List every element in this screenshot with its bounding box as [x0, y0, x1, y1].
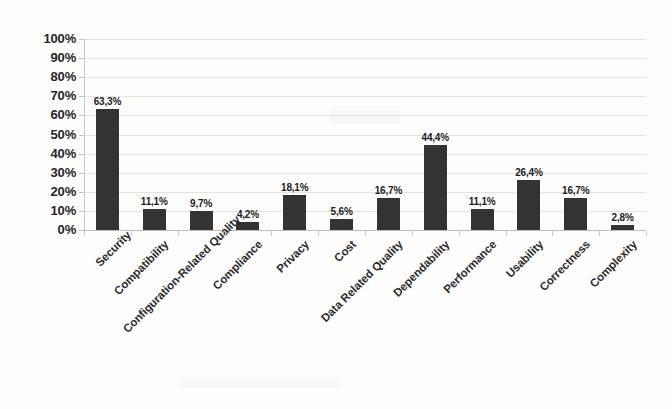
bar-value-label: 11,1%	[454, 196, 510, 207]
bar[interactable]	[564, 198, 587, 230]
bar[interactable]	[377, 198, 400, 230]
bar[interactable]	[517, 180, 540, 230]
y-axis-tick-label: 40%	[14, 146, 76, 161]
y-axis-tick-mark	[79, 77, 84, 78]
x-axis-tick-mark	[271, 231, 272, 236]
y-axis-tick-label: 100%	[14, 31, 76, 46]
bar[interactable]	[190, 211, 213, 230]
bar-group: 9,7%	[178, 39, 225, 230]
bar-value-label: 44,4%	[407, 132, 463, 143]
y-axis-tick-mark	[79, 96, 84, 97]
bar-value-label: 5,6%	[314, 206, 370, 217]
x-axis-tick-mark	[459, 231, 460, 236]
x-axis-tick-mark	[178, 231, 179, 236]
x-axis-tick-mark	[225, 231, 226, 236]
y-axis-tick-mark	[79, 192, 84, 193]
bar-group: 5,6%	[318, 39, 365, 230]
bar[interactable]	[611, 225, 634, 230]
x-axis-tick-mark	[412, 231, 413, 236]
y-axis-tick-mark	[79, 154, 84, 155]
bar[interactable]	[143, 209, 166, 230]
x-axis-category-label: Configuration-Related Quality	[121, 238, 218, 335]
x-axis-tick-mark	[599, 231, 600, 236]
x-axis-tick-mark	[84, 231, 85, 236]
x-axis-category-label: Security	[93, 238, 124, 269]
bar-group: 11,1%	[131, 39, 178, 230]
bar[interactable]	[471, 209, 494, 230]
bar[interactable]	[283, 195, 306, 230]
bar-group: 26,4%	[506, 39, 553, 230]
bar-group: 11,1%	[459, 39, 506, 230]
x-axis-tick-mark	[552, 231, 553, 236]
bar-value-label: 2,8%	[595, 212, 651, 223]
y-axis-tick-label: 0%	[14, 222, 76, 237]
y-axis-tick-mark	[79, 173, 84, 174]
x-axis-tick-mark	[506, 231, 507, 236]
bar-group: 44,4%	[412, 39, 459, 230]
bar-group: 63,3%	[84, 39, 131, 230]
y-axis-tick-mark	[79, 39, 84, 40]
bar-value-label: 18,1%	[267, 182, 323, 193]
bar-group: 16,7%	[365, 39, 412, 230]
bar-group: 2,8%	[599, 39, 646, 230]
bar[interactable]	[96, 109, 119, 230]
bar-group: 16,7%	[552, 39, 599, 230]
bar-group: 4,2%	[225, 39, 272, 230]
y-axis-tick-label: 80%	[14, 69, 76, 84]
x-axis-tick-mark	[131, 231, 132, 236]
bar-value-label: 16,7%	[548, 185, 604, 196]
y-axis-tick-label: 50%	[14, 127, 76, 142]
bar-value-label: 16,7%	[360, 185, 416, 196]
x-axis-tick-mark	[365, 231, 366, 236]
y-axis-tick-label: 10%	[14, 203, 76, 218]
bar[interactable]	[424, 145, 447, 230]
bar-value-label: 26,4%	[501, 167, 557, 178]
y-axis-tick-mark	[79, 115, 84, 116]
bar-value-label: 9,7%	[173, 198, 229, 209]
bar-group: 18,1%	[271, 39, 318, 230]
x-axis-labels: SecurityCompatibilityConfiguration-Relat…	[84, 238, 646, 368]
x-axis-tick-mark	[318, 231, 319, 236]
x-axis-tick-mark	[646, 231, 647, 236]
bar-chart: 100%90%80%70%60%50%40%30%20%10%0% 63,3%1…	[0, 0, 672, 409]
y-axis-tick-mark	[79, 211, 84, 212]
plot-area: 63,3%11,1%9,7%4,2%18,1%5,6%16,7%44,4%11,…	[84, 39, 646, 230]
y-axis-tick-label: 20%	[14, 184, 76, 199]
y-axis-tick-label: 30%	[14, 165, 76, 180]
bar-value-label: 63,3%	[79, 96, 135, 107]
y-axis-tick-mark	[79, 58, 84, 59]
y-axis-tick-label: 60%	[14, 107, 76, 122]
y-axis-tick-mark	[79, 135, 84, 136]
y-axis-tick-label: 90%	[14, 50, 76, 65]
bar[interactable]	[330, 219, 353, 230]
y-axis-tick-label: 70%	[14, 88, 76, 103]
